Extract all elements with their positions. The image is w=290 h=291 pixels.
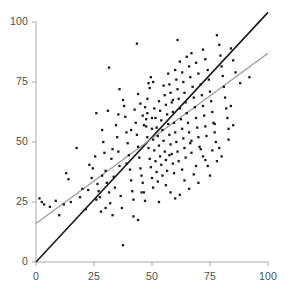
y-tick-label-100: 100: [0, 16, 28, 27]
data-point: [140, 191, 142, 193]
data-point: [174, 69, 176, 71]
data-point: [219, 54, 221, 56]
data-point: [180, 118, 182, 120]
data-point: [146, 98, 148, 100]
data-point: [183, 92, 185, 94]
data-point: [146, 112, 148, 114]
data-point: [225, 107, 227, 109]
data-point: [184, 101, 186, 103]
data-point: [87, 189, 89, 191]
x-tick-label-25: 25: [74, 271, 114, 282]
data-point: [207, 69, 209, 71]
data-point: [162, 84, 164, 86]
data-point: [153, 149, 155, 151]
data-point: [137, 146, 139, 148]
data-point: [38, 197, 40, 199]
data-point: [153, 107, 155, 109]
data-point: [151, 128, 153, 130]
data-point: [196, 126, 198, 128]
data-point: [100, 210, 102, 212]
data-point: [143, 191, 145, 193]
data-point: [106, 182, 108, 184]
data-point: [165, 159, 167, 161]
data-point: [137, 219, 139, 221]
data-point: [181, 168, 183, 170]
data-point: [118, 88, 120, 90]
data-point: [175, 141, 177, 143]
data-point: [183, 179, 185, 181]
data-point: [136, 42, 138, 44]
data-point: [159, 110, 161, 112]
data-point: [133, 108, 135, 110]
data-point: [179, 194, 181, 196]
data-point: [145, 125, 147, 127]
data-point: [158, 144, 160, 146]
data-point: [175, 78, 177, 80]
data-point: [85, 208, 87, 210]
data-point: [195, 165, 197, 167]
data-point: [226, 117, 228, 119]
data-point: [215, 141, 217, 143]
data-point: [95, 112, 97, 114]
data-point: [160, 119, 162, 121]
data-point: [129, 168, 131, 170]
data-point: [151, 117, 153, 119]
data-point: [182, 81, 184, 83]
data-point: [230, 105, 232, 107]
trend-lines: [36, 12, 268, 262]
data-point: [101, 129, 103, 131]
data-point: [218, 147, 220, 149]
data-point: [92, 167, 94, 169]
data-point: [167, 72, 169, 74]
data-point: [164, 94, 166, 96]
data-point: [111, 148, 113, 150]
data-point: [94, 155, 96, 157]
data-point: [207, 165, 209, 167]
data-point: [131, 190, 133, 192]
data-point: [104, 207, 106, 209]
data-point: [211, 149, 213, 151]
data-point: [122, 99, 124, 101]
data-point: [147, 82, 149, 84]
data-point: [178, 160, 180, 162]
data-point: [158, 100, 160, 102]
data-point: [189, 76, 191, 78]
data-point: [101, 174, 103, 176]
data-point: [117, 113, 119, 115]
data-point: [168, 134, 170, 136]
data-point: [128, 154, 130, 156]
y-tick-label-25: 25: [0, 196, 28, 207]
data-point: [126, 142, 128, 144]
data-point: [176, 150, 178, 152]
data-point: [122, 244, 124, 246]
data-point: [166, 170, 168, 172]
data-point: [113, 176, 115, 178]
data-point: [125, 162, 127, 164]
data-point: [179, 107, 181, 109]
data-point: [111, 214, 113, 216]
data-point: [209, 174, 211, 176]
data-point: [188, 65, 190, 67]
data-point: [139, 102, 141, 104]
data-point: [165, 184, 167, 186]
data-point: [173, 122, 175, 124]
data-point: [204, 58, 206, 60]
data-point: [58, 214, 60, 216]
data-point: [161, 174, 163, 176]
data-point: [181, 71, 183, 73]
data-point: [202, 155, 204, 157]
data-point: [197, 182, 199, 184]
x-tick-label-75: 75: [190, 271, 230, 282]
data-point: [145, 118, 147, 120]
data-point: [155, 126, 157, 128]
data-point: [157, 135, 159, 137]
data-point: [202, 105, 204, 107]
y-tick-label-75: 75: [0, 76, 28, 87]
data-point: [115, 124, 117, 126]
data-point: [88, 164, 90, 166]
data-point: [124, 116, 126, 118]
data-point: [176, 88, 178, 90]
data-point: [213, 131, 215, 133]
data-point: [164, 150, 166, 152]
data-point: [67, 178, 69, 180]
